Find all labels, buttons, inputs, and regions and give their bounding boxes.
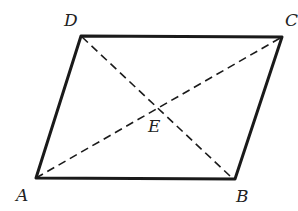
parallelogram-diagram: D C E A B — [0, 0, 298, 211]
label-a: A — [14, 185, 28, 205]
label-e: E — [147, 116, 161, 136]
label-b: B — [235, 186, 249, 206]
diagram-svg: D C E A B — [0, 0, 298, 211]
label-d: D — [63, 10, 78, 30]
diagonal-bd — [81, 36, 230, 176]
label-c: C — [285, 10, 298, 30]
